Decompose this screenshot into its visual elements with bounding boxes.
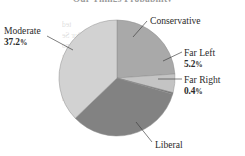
slice-value-far-right: 0.4% [184, 86, 221, 98]
percent-sign: % [195, 87, 202, 96]
slice-label-conservative: Conservative [150, 16, 201, 27]
slice-label-far-left: Far Left 5.2% [184, 48, 215, 70]
slice-label-far-right: Far Right 0.4% [184, 75, 221, 97]
percent-sign: % [195, 60, 202, 69]
slice-label-far-left-name: Far Left [184, 47, 215, 58]
slice-value-moderate: 37.2% [4, 37, 41, 49]
percent-sign: % [20, 38, 27, 47]
slice-label-conservative-name: Conservative [150, 15, 201, 26]
slice-label-moderate: Moderate 37.2% [4, 26, 41, 48]
slice-label-liberal: Liberal [155, 140, 183, 151]
slice-label-far-right-name: Far Right [184, 74, 221, 85]
slice-label-moderate-name: Moderate [4, 25, 41, 36]
pie-slices [59, 20, 175, 136]
slice-label-liberal-name: Liberal [155, 139, 183, 150]
leader-line-moderate [47, 36, 73, 50]
slice-value-far-left: 5.2% [184, 59, 215, 71]
pie-chart-figure: Our Things Probability ted Our Se sno mu… [0, 0, 245, 156]
pie-slice-conservative[interactable] [117, 20, 175, 78]
